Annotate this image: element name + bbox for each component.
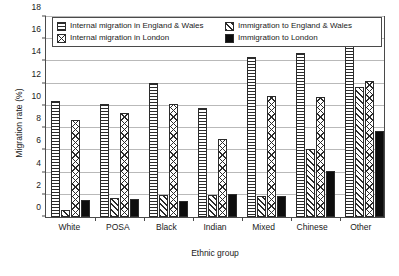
bar — [326, 171, 335, 217]
y-axis-tick-label: 4 — [36, 158, 46, 168]
bar — [169, 104, 178, 217]
bar — [51, 101, 60, 217]
x-axis-tick-mark — [144, 217, 145, 221]
horizontal-lines-swatch — [57, 22, 66, 31]
bar — [149, 83, 158, 217]
x-axis-tick-mark — [193, 217, 194, 221]
bar-group — [46, 17, 95, 217]
x-axis-tick-label: Mixed — [239, 222, 288, 232]
migration-rate-bar-chart: Migration rate (%) 024681012141618 White… — [0, 0, 399, 276]
legend-label: Internal migration in England & Wales — [70, 21, 204, 31]
solid-black-swatch — [225, 34, 234, 43]
bar — [228, 194, 237, 217]
bar-groups — [46, 17, 384, 217]
x-axis-title: Ethnic group — [45, 248, 385, 258]
x-axis-tick-mark — [95, 217, 96, 221]
bar — [61, 210, 70, 217]
x-axis-tick-label: Indian — [191, 222, 240, 232]
bar — [316, 97, 325, 217]
bar — [355, 87, 364, 217]
bar — [218, 139, 227, 217]
bar — [100, 104, 109, 217]
legend-item: Immigration to England & Wales — [225, 21, 376, 31]
bar — [159, 195, 168, 217]
bar-group — [193, 17, 242, 217]
y-axis-tick-label: 12 — [32, 69, 46, 79]
bar — [375, 131, 384, 217]
bar — [277, 196, 286, 217]
bar — [247, 57, 256, 217]
y-axis-tick-label: 10 — [32, 91, 46, 101]
bar-group — [144, 17, 193, 217]
x-axis-tick-label: Chinese — [288, 222, 337, 232]
bar — [296, 53, 305, 217]
legend-item: Internal migration in London — [57, 33, 225, 43]
x-axis-tick-mark — [340, 217, 341, 221]
bar — [257, 196, 266, 217]
y-axis-tick-label: 2 — [36, 180, 46, 190]
bar — [208, 195, 217, 217]
bar — [306, 149, 315, 217]
bar-group — [291, 17, 340, 217]
y-axis-tick-label: 18 — [32, 2, 46, 12]
x-axis-tick-mark — [242, 217, 243, 221]
bar-group — [340, 17, 389, 217]
x-axis-tick-labels: WhitePOSABlackIndianMixedChineseOther — [45, 222, 385, 232]
legend-item: Immigration to London — [225, 33, 376, 43]
x-axis-tick-label: Black — [142, 222, 191, 232]
x-axis-tick-label: Other — [336, 222, 385, 232]
y-axis-tick-label: 14 — [32, 46, 46, 56]
x-axis-tick-label: White — [45, 222, 94, 232]
bar — [110, 198, 119, 217]
single-x-swatch — [57, 34, 66, 43]
y-axis-tick-label: 0 — [36, 202, 46, 212]
x-axis-tick-label: POSA — [94, 222, 143, 232]
bar — [179, 201, 188, 217]
diagonal-hatch-swatch — [225, 22, 234, 31]
bar — [267, 96, 276, 217]
bar — [120, 113, 129, 217]
y-axis-title: Migration rate (%) — [14, 53, 24, 193]
legend-label: Internal migration in London — [70, 33, 169, 43]
chart-legend: Internal migration in England & WalesImm… — [52, 17, 382, 47]
legend-item: Internal migration in England & Wales — [57, 21, 225, 31]
bar — [130, 199, 139, 217]
bar — [365, 81, 374, 217]
bar — [81, 200, 90, 217]
x-axis-tick-mark — [291, 217, 292, 221]
legend-label: Immigration to England & Wales — [238, 21, 352, 31]
y-axis-tick-label: 16 — [32, 24, 46, 34]
bar — [71, 120, 80, 217]
bar — [345, 44, 354, 217]
y-axis-tick-label: 6 — [36, 135, 46, 145]
legend-label: Immigration to London — [238, 33, 318, 43]
bar-group — [242, 17, 291, 217]
y-axis-tick-label: 8 — [36, 113, 46, 123]
bar-group — [95, 17, 144, 217]
bar — [198, 108, 207, 217]
